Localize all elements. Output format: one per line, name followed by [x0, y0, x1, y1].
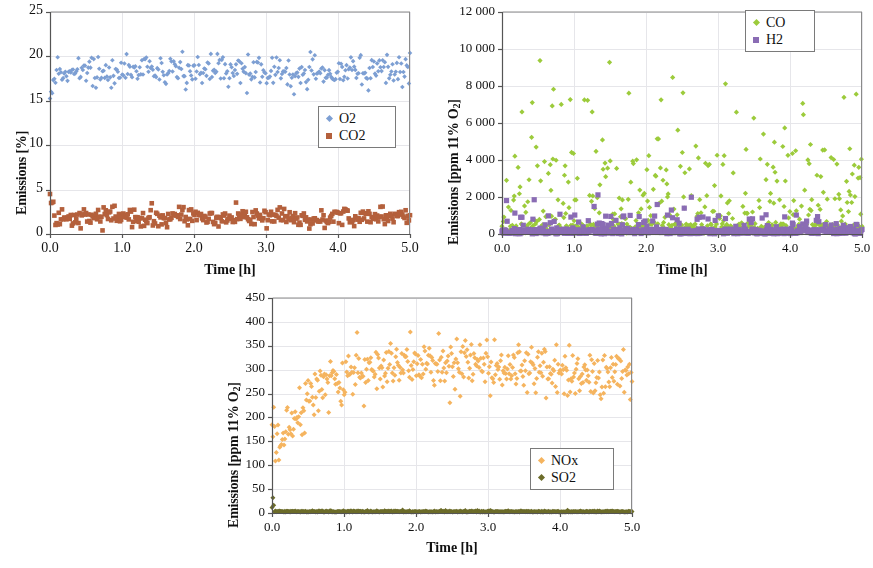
chart-panel-co-h2: Emissions [ppm 11% O2] Time [h] COH2 02 … [432, 0, 873, 290]
legend-o2-co2: O2CO2 [318, 106, 396, 148]
x-tick-label: 1.0 [100, 240, 144, 256]
x-tick-label: 2.0 [624, 240, 668, 256]
y-tick-label: 6 000 [432, 114, 495, 130]
legend-label: CO2 [339, 129, 365, 143]
y-tick-label: 150 [212, 432, 265, 448]
x-tick-label: 5.0 [610, 519, 654, 535]
y-tick-label: 200 [212, 408, 265, 424]
x-tick-label: 3.0 [466, 519, 510, 535]
y-tick-label: 250 [212, 384, 265, 400]
y-tick-label: 4 000 [432, 151, 495, 167]
y-tick-label: 10 000 [432, 40, 495, 56]
emissions-figure: Emissions [%] Time [h] O2CO2 05101520250… [0, 0, 873, 568]
diamond-marker-icon [535, 472, 547, 484]
x-tick-label: 4.0 [768, 240, 812, 256]
y-tick-label: 0 [0, 224, 43, 240]
x-tick-label: 0.0 [250, 519, 294, 535]
x-tick-label: 3.0 [244, 240, 288, 256]
y-tick-label: 2 000 [432, 188, 495, 204]
legend-co-h2: COH2 [745, 10, 815, 52]
legend-label: CO [766, 16, 785, 30]
y-tick-label: 350 [212, 336, 265, 352]
x-tick-label: 4.0 [316, 240, 360, 256]
y-tick-label: 8 000 [432, 77, 495, 93]
square-marker-icon [750, 34, 762, 46]
x-tick-label: 1.0 [322, 519, 366, 535]
x-tick-label: 2.0 [394, 519, 438, 535]
x-tick-label: 4.0 [538, 519, 582, 535]
y-tick-label: 15 [0, 91, 43, 107]
x-tick-label: 1.0 [552, 240, 596, 256]
chart-panel-o2-co2: Emissions [%] Time [h] O2CO2 05101520250… [0, 0, 430, 290]
y-tick-label: 100 [212, 456, 265, 472]
y-tick-label: 0 [432, 225, 495, 241]
diamond-marker-icon [750, 17, 762, 29]
legend-item-co2[interactable]: CO2 [323, 127, 388, 144]
y-tick-label: 50 [212, 480, 265, 496]
legend-item-h2[interactable]: H2 [750, 31, 807, 48]
y-tick-label: 10 [0, 135, 43, 151]
x-axis-title-nox-so2: Time [h] [272, 540, 632, 556]
x-tick-label: 2.0 [172, 240, 216, 256]
y-tick-label: 0 [212, 504, 265, 520]
legend-label: SO2 [551, 471, 576, 485]
x-tick-label: 5.0 [840, 240, 873, 256]
chart-panel-nox-so2: Emissions [ppm 11% O2] Time [h] NOxSO2 0… [212, 288, 660, 568]
y-tick-label: 25 [0, 2, 43, 18]
x-axis-title-o2-co2: Time [h] [50, 262, 410, 278]
legend-item-o2[interactable]: O2 [323, 110, 388, 127]
legend-label: H2 [766, 33, 783, 47]
y-tick-label: 400 [212, 313, 265, 329]
y-tick-label: 12 000 [432, 3, 495, 19]
x-axis-title-co-h2: Time [h] [502, 262, 862, 278]
legend-item-co[interactable]: CO [750, 14, 807, 31]
diamond-marker-icon [535, 455, 547, 467]
y-tick-label: 450 [212, 289, 265, 305]
y-tick-label: 300 [212, 360, 265, 376]
legend-label: NOx [551, 454, 578, 468]
legend-item-nox[interactable]: NOx [535, 452, 606, 469]
legend-label: O2 [339, 112, 356, 126]
y-tick-label: 5 [0, 180, 43, 196]
x-tick-label: 3.0 [696, 240, 740, 256]
diamond-marker-icon [323, 113, 335, 125]
x-tick-label: 5.0 [388, 240, 432, 256]
square-marker-icon [323, 130, 335, 142]
y-tick-label: 20 [0, 46, 43, 62]
legend-item-so2[interactable]: SO2 [535, 469, 606, 486]
x-tick-label: 0.0 [28, 240, 72, 256]
legend-nox-so2: NOxSO2 [530, 448, 614, 490]
x-tick-label: 0.0 [480, 240, 524, 256]
